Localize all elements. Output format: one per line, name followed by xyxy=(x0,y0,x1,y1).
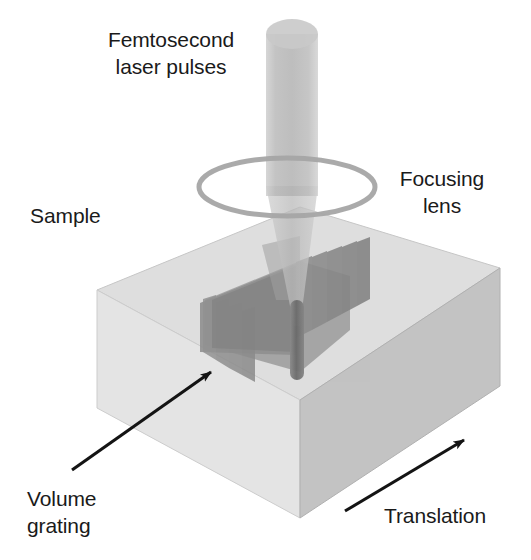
label-laser-line1: Femtosecond xyxy=(108,28,234,51)
label-sample: Sample xyxy=(30,204,101,227)
label-translation-line1: Translation xyxy=(384,504,486,527)
label-laser: Femtosecond laser pulses xyxy=(108,28,234,78)
beam-cylinder xyxy=(266,34,318,196)
label-focusing-lens: Focusing lens xyxy=(400,167,484,217)
diagram-canvas: Femtosecond laser pulses Focusing lens S… xyxy=(0,0,531,560)
grating-tooth xyxy=(357,237,370,306)
beam-top-cap xyxy=(266,19,318,49)
grating-tooth xyxy=(342,241,357,314)
laser-beam xyxy=(266,19,318,196)
label-sample-line1: Sample xyxy=(30,204,101,227)
label-grating-line2: grating xyxy=(27,514,91,537)
label-lens-line1: Focusing xyxy=(400,167,484,190)
label-lens-line2: lens xyxy=(423,194,461,217)
grating-tooth xyxy=(327,246,342,322)
focal-spot xyxy=(290,300,304,380)
focal-rod xyxy=(290,300,304,380)
label-volume-grating: Volume grating xyxy=(27,487,96,537)
label-laser-line2: laser pulses xyxy=(116,55,227,78)
figure-root: Femtosecond laser pulses Focusing lens S… xyxy=(0,0,531,560)
label-grating-line1: Volume xyxy=(27,487,96,510)
grating-tooth xyxy=(312,251,327,330)
label-translation: Translation xyxy=(384,504,486,527)
